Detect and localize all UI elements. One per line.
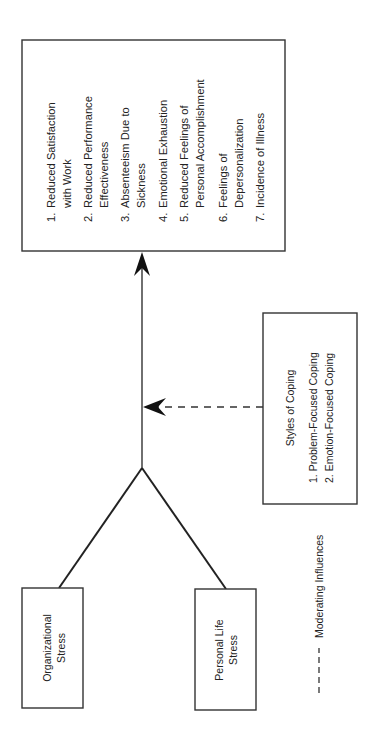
personal-stress-frame [195,589,256,710]
coping-box: Styles of Coping 1. Problem-Focused Copi… [263,313,357,504]
personal-stress-line1: Personal Life [213,619,225,680]
org-stress-line1: Organizational [41,614,53,682]
legend-label: Moderating Influences [313,535,325,638]
personal-stress-connector [142,468,226,589]
outcome-5-line1: Reduced Feelings of [178,104,190,208]
legend: Moderating Influences [313,535,325,693]
outcome-6-num: 6. [217,213,229,222]
coping-item-1: 1. Problem-Focused Coping [307,352,319,483]
outcome-6-line2: Depersonalization [233,118,245,208]
outcomes-box: 1. Reduced Satisfaction with Work 2. Red… [22,40,285,251]
outcome-6-line1: Feelings of [217,152,229,208]
outcome-3-num: 3. [119,213,131,222]
outcome-1-line1: Reduced Satisfaction [45,102,57,208]
org-stress-line2: Stress [55,633,67,663]
outcome-3-line2: Sickness [135,163,147,208]
arrowhead-left-icon [143,398,166,416]
personal-life-stress-box: Personal Life Stress [195,589,256,710]
outcome-7-line1: Incidence of Illness [254,112,266,208]
outcome-2-line2: Effectiveness [98,141,110,208]
organizational-stress-box: Organizational Stress [22,588,83,708]
outcome-1-line2: with Work [61,159,73,209]
outcome-4-line1: Emotional Exhaustion [157,100,169,208]
personal-stress-line2: Stress [227,635,239,665]
outcome-2-num: 2. [82,213,94,222]
outcome-5-num: 5. [178,213,190,222]
coping-title: Styles of Coping [284,370,296,447]
coping-item-2: 2. Emotion-Focused Coping [323,353,335,483]
outcome-3-line1: Absenteeism Due to [119,107,131,208]
outcome-5-line2: Personal Accomplishment [194,78,206,208]
outcome-1-num: 1. [45,213,57,222]
outcome-7-num: 7. [254,213,266,222]
outcome-2-line1: Reduced Performance [82,96,94,208]
stress-model-diagram: 1. Reduced Satisfaction with Work 2. Red… [0,0,379,743]
outcome-4-num: 4. [157,213,169,222]
outcomes-box-frame [22,40,285,251]
org-stress-connector [59,468,142,588]
